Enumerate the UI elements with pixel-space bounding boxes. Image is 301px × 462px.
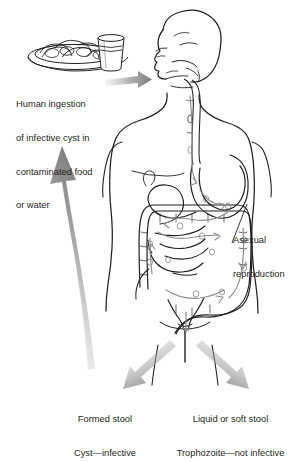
- asexual-line-1: Asexual: [233, 235, 285, 246]
- liquid-stool-line-2: Trophozoite—not infective: [160, 448, 301, 459]
- human-ingestion-caption: Human ingestion of infective cyst in con…: [16, 77, 93, 223]
- formed-stool-line-2: Cyst—infective: [45, 448, 165, 459]
- formed-stool-line-1: Formed stool: [45, 414, 165, 425]
- ingestion-line-2: of infective cyst in: [16, 133, 93, 144]
- glass-of-water-icon: [98, 35, 124, 71]
- liquid-stool-caption: Liquid or soft stool Trophozoite—not inf…: [160, 392, 301, 462]
- asexual-reproduction-caption: Asexual reproduction: [233, 213, 285, 291]
- formed-stool-caption: Formed stool Cyst—infective: [45, 392, 165, 462]
- ingestion-line-4: or water: [16, 200, 93, 211]
- liquid-stool-line-1: Liquid or soft stool: [160, 414, 301, 425]
- ingestion-line-1: Human ingestion: [16, 99, 93, 110]
- asexual-line-2: reproduction: [233, 269, 285, 280]
- ingestion-line-3: contaminated food: [16, 167, 93, 178]
